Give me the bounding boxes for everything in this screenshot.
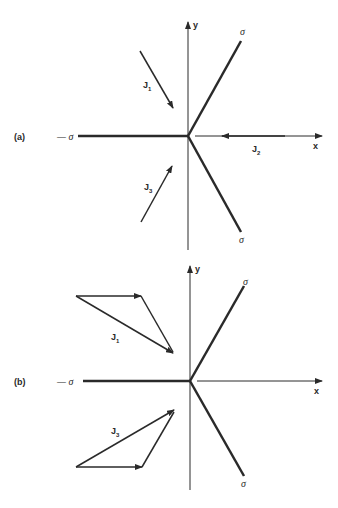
vector-j3 (141, 166, 172, 222)
x-axis-label: x (313, 141, 318, 151)
diagram-canvas: (a) y x — σ σ σ J1 J2 J3 (b) y x — σ σ σ (0, 0, 338, 508)
vector-j1-label: J1 (111, 332, 120, 344)
panel-a: (a) y x — σ σ σ J1 J2 J3 (14, 20, 322, 250)
vector-j1 (76, 296, 173, 353)
sigma-upper: σ (240, 26, 246, 37)
vector-j3-label: J3 (144, 182, 153, 194)
vector-j2-label: J2 (252, 144, 261, 156)
sigma-left: — σ (56, 376, 74, 387)
sigma-upper: σ (243, 276, 249, 287)
x-axis-label: x (314, 386, 319, 396)
sigma-lower: σ (239, 234, 245, 245)
interface-upper (188, 41, 241, 136)
component-j3-diagonal (142, 412, 174, 467)
interface-lower (188, 136, 241, 232)
interface-lower (190, 381, 244, 476)
sigma-left: — σ (56, 131, 74, 142)
sigma-lower: σ (241, 478, 247, 489)
y-axis-label: y (193, 20, 198, 30)
vector-j3-label: J3 (111, 426, 120, 438)
interface-upper (190, 286, 244, 381)
vector-j1-label: J1 (143, 80, 152, 92)
panel-b-label: (b) (14, 377, 26, 387)
panel-a-label: (a) (14, 132, 25, 142)
y-axis-label: y (195, 264, 200, 274)
panel-b: (b) y x — σ σ σ J1 J3 (14, 264, 322, 490)
